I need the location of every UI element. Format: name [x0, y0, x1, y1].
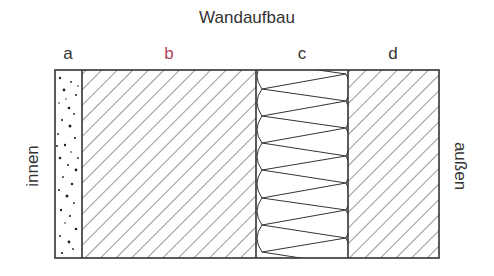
layer-d-facade: [348, 70, 439, 258]
layer-b-masonry: [82, 70, 256, 258]
wall-section-drawing: [0, 0, 494, 276]
layer-c-insulation: [257, 62, 350, 265]
layer-a-plaster: [55, 70, 82, 258]
